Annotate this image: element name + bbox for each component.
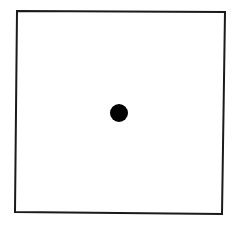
diagram-canvas: [0, 0, 237, 232]
center-dot: [110, 104, 128, 122]
